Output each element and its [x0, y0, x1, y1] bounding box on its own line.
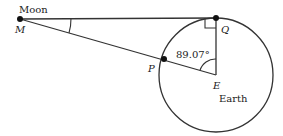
point-M: [17, 16, 23, 22]
diagram-canvas: Moon M Q P E 89.07° Earth: [0, 0, 283, 136]
label-P: P: [147, 63, 155, 74]
point-Q: [213, 15, 219, 21]
angle-arc-E: [200, 59, 216, 70]
label-angle-E: 89.07°: [176, 49, 210, 60]
label-M: M: [14, 24, 26, 35]
label-earth: Earth: [219, 93, 248, 104]
angle-arc-M: [69, 18, 71, 33]
label-E: E: [212, 80, 221, 91]
point-P: [161, 56, 167, 62]
line-ME: [20, 19, 216, 75]
line-MQ: [20, 18, 216, 19]
label-moon: Moon: [19, 4, 48, 15]
moon-earth-diagram: Moon M Q P E 89.07° Earth: [0, 0, 283, 136]
label-Q: Q: [221, 24, 229, 35]
